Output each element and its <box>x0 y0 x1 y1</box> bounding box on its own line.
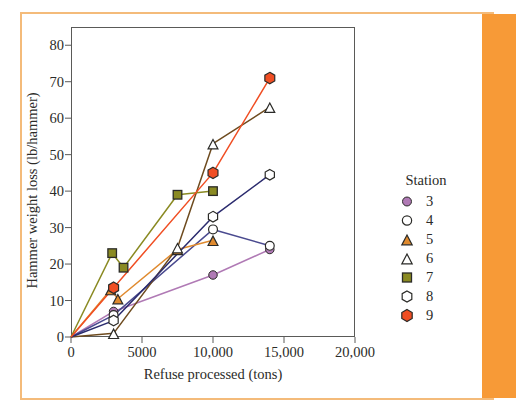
legend-label: 5 <box>426 231 433 248</box>
legend-label: 7 <box>426 269 433 286</box>
marker-filled-hexagon <box>208 167 218 178</box>
marker-open-hexagon <box>109 315 118 326</box>
legend-marker-glyph <box>396 307 418 324</box>
x-tick-label: 10,000 <box>193 344 233 361</box>
legend-marker-icon <box>396 269 418 286</box>
figure-page: 01020304050607080 0500010,00015,00020,00… <box>0 0 526 409</box>
marker-filled-square <box>119 263 128 272</box>
marker-filled-triangle <box>402 235 412 245</box>
marker-open-hexagon <box>402 291 412 302</box>
marker-filled-square <box>209 187 218 196</box>
marker-open-circle <box>265 241 274 250</box>
series-line-station-4 <box>71 229 270 337</box>
series-line-station-7 <box>71 191 213 337</box>
x-tick-label: 15,000 <box>264 344 304 361</box>
legend-marker-icon <box>396 250 418 267</box>
marker-filled-square <box>402 273 411 282</box>
legend-marker-glyph <box>396 250 418 267</box>
marker-filled-hexagon <box>265 72 275 83</box>
legend-item-station-6[interactable]: 6 <box>382 249 466 268</box>
marker-open-circle <box>209 225 218 234</box>
legend-marker-glyph <box>396 269 418 286</box>
legend-label: 9 <box>426 307 433 324</box>
y-axis-title: Hammer weight loss (lb/hammer) <box>24 81 41 301</box>
marker-open-triangle <box>265 103 275 112</box>
scatter-line-chart: 01020304050607080 0500010,00015,00020,00… <box>0 0 470 400</box>
legend-marker-icon <box>396 307 418 324</box>
legend-marker-glyph <box>396 193 418 210</box>
x-tick-label: 20,000 <box>335 344 375 361</box>
series-lines <box>71 78 270 337</box>
x-axis-title: Refuse processed (tons) <box>71 366 355 383</box>
series-line-station-9 <box>71 78 270 337</box>
legend-item-station-8[interactable]: 8 <box>382 287 466 306</box>
marker-open-triangle <box>402 254 412 264</box>
legend-marker-glyph <box>396 212 418 229</box>
series-station-9 <box>109 72 275 293</box>
series-line-station-3 <box>71 249 270 337</box>
legend-rows: 3456789 <box>382 192 466 325</box>
legend-label: 4 <box>426 212 433 229</box>
legend: Station 3456789 <box>382 172 466 325</box>
marker-filled-square <box>108 249 117 258</box>
legend-marker-icon <box>396 288 418 305</box>
marker-filled-hexagon <box>402 309 412 321</box>
marker-open-hexagon <box>265 169 274 180</box>
legend-label: 6 <box>426 250 433 267</box>
marker-open-hexagon <box>208 211 217 222</box>
legend-marker-icon <box>396 231 418 248</box>
marker-filled-circle <box>403 197 412 206</box>
series-station-6 <box>109 103 275 338</box>
legend-label: 3 <box>426 193 433 210</box>
legend-marker-glyph <box>396 288 418 305</box>
legend-item-station-5[interactable]: 5 <box>382 230 466 249</box>
marker-filled-hexagon <box>109 282 119 293</box>
marker-open-circle <box>402 216 411 225</box>
y-tick-label: 0 <box>30 329 64 346</box>
x-tick-label: 5000 <box>128 344 157 361</box>
x-tick-label: 0 <box>67 344 74 361</box>
legend-marker-glyph <box>396 231 418 248</box>
legend-marker-icon <box>396 193 418 210</box>
legend-item-station-7[interactable]: 7 <box>382 268 466 287</box>
legend-marker-icon <box>396 212 418 229</box>
legend-title: Station <box>382 172 466 189</box>
page-edge-color-band <box>482 14 516 398</box>
marker-filled-circle <box>209 271 218 280</box>
legend-item-station-4[interactable]: 4 <box>382 211 466 230</box>
legend-item-station-9[interactable]: 9 <box>382 306 466 325</box>
y-tick-label: 80 <box>30 37 64 54</box>
legend-label: 8 <box>426 288 433 305</box>
marker-filled-square <box>173 190 182 199</box>
legend-item-station-3[interactable]: 3 <box>382 192 466 211</box>
